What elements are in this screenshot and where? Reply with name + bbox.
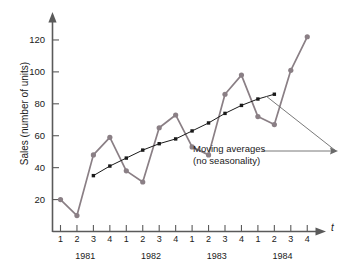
x-tick-label: 4 xyxy=(235,234,247,244)
x-tick-label: 2 xyxy=(268,234,280,244)
data-point xyxy=(58,197,63,202)
data-point xyxy=(124,168,129,173)
data-point xyxy=(272,122,277,127)
series-line-0 xyxy=(61,37,308,216)
y-axis-ticks xyxy=(53,40,60,200)
x-tick-label: 2 xyxy=(203,234,215,244)
moving-averages-annotation: Moving averages (no seasonality) xyxy=(193,143,265,167)
x-axis-year-label: 1981 xyxy=(65,251,105,261)
data-point xyxy=(173,112,178,117)
annotation-line-1: Moving averages xyxy=(193,143,265,155)
x-tick-label: 3 xyxy=(219,234,231,244)
x-tick-label: 3 xyxy=(285,234,297,244)
x-tick-label: 2 xyxy=(71,234,83,244)
x-axis-year-label: 1983 xyxy=(197,251,237,261)
x-tick-label: 1 xyxy=(120,234,132,244)
y-axis xyxy=(48,12,56,232)
data-point xyxy=(108,164,111,167)
data-point xyxy=(190,129,193,132)
data-point xyxy=(157,125,162,130)
data-point xyxy=(256,97,259,100)
data-point xyxy=(288,68,293,73)
x-tick-label: 1 xyxy=(186,234,198,244)
x-tick-label: 4 xyxy=(104,234,116,244)
x-tick-label: 1 xyxy=(252,234,264,244)
data-point xyxy=(255,114,260,119)
data-point xyxy=(140,179,145,184)
x-axis-year-label: 1982 xyxy=(131,251,171,261)
data-point xyxy=(107,135,112,140)
x-tick-label: 4 xyxy=(170,234,182,244)
data-point xyxy=(273,93,276,96)
data-point xyxy=(223,112,226,115)
data-point xyxy=(239,72,244,77)
data-point xyxy=(222,92,227,97)
data-point xyxy=(174,137,177,140)
sales-time-series-chart: 20406080100120 1234123412341234 19811982… xyxy=(0,0,345,269)
data-point xyxy=(141,148,144,151)
data-point xyxy=(74,213,79,218)
data-series-layer xyxy=(58,34,310,218)
x-tick-label: 1 xyxy=(55,234,67,244)
x-axis-ticks xyxy=(61,225,308,232)
data-point xyxy=(125,156,128,159)
x-axis-year-label: 1984 xyxy=(263,251,303,261)
data-point xyxy=(207,121,210,124)
chart-plot-area xyxy=(0,0,345,269)
x-tick-label: 2 xyxy=(137,234,149,244)
data-point xyxy=(92,174,95,177)
data-point xyxy=(91,152,96,157)
x-tick-label: 3 xyxy=(87,234,99,244)
data-point xyxy=(305,34,310,39)
x-tick-label: 3 xyxy=(153,234,165,244)
data-point xyxy=(158,142,161,145)
y-axis-title: Sales (number of units) xyxy=(19,24,30,204)
x-axis-title: t xyxy=(331,222,334,233)
data-point xyxy=(240,104,243,107)
annotation-line-2: (no seasonality) xyxy=(193,155,265,167)
x-tick-label: 4 xyxy=(301,234,313,244)
